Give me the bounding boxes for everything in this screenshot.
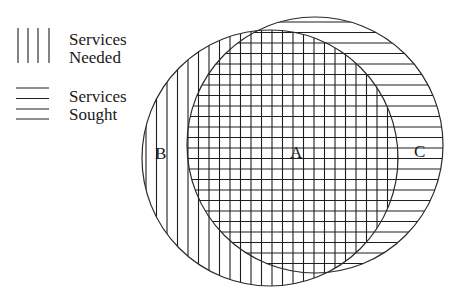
legend-item-services-needed: Services Needed [18,28,127,67]
region-label-c: C [414,142,425,161]
vertical-lines-swatch-icon [18,28,49,63]
horizontal-lines-swatch-icon [16,88,49,119]
legend-label-needed: Needed [69,48,121,67]
legend: Services Needed Services Sought [16,28,127,124]
region-label-b: B [155,144,166,163]
venn-diagram: Services Needed Services Sought B A C [0,0,461,302]
services-sought-hatching [183,22,447,274]
services-sought-circle [187,17,443,273]
legend-item-services-sought: Services Sought [16,87,127,124]
legend-label-services: Services [69,87,127,106]
legend-label-sought: Sought [69,105,117,124]
region-labels: B A C [155,142,425,163]
legend-label-services: Services [69,30,127,49]
region-label-a: A [290,143,303,162]
